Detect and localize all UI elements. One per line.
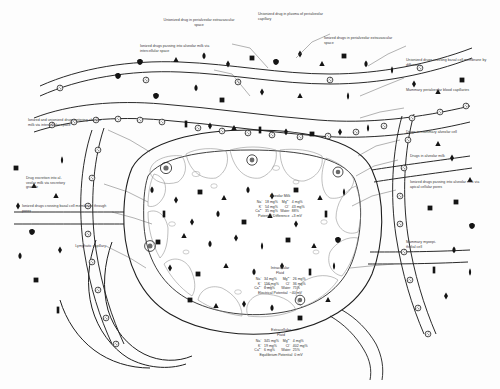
label-mammary-blood-capillaries: Mammary perialveolar blood capillaries xyxy=(406,88,484,93)
alveolar-milk-ion-table: Na+ 18 mg% Mg2+ 4 mg% K+ 54 mg% Cl− 43 m… xyxy=(254,200,306,214)
label-lymphatic-capillary: Lymphatic capillary xyxy=(22,244,106,249)
label-ionized-intercellular: Ionized drugs passing into alveolar milk… xyxy=(140,44,214,53)
extracellular-fluid-title: Extracellular Fluid xyxy=(222,328,340,337)
alveolar-milk-title: Alveolar Milk xyxy=(222,194,338,199)
intracellular-fluid-potential: Electrical Potential −40 mV xyxy=(222,291,338,296)
compartment-intracellular-fluid: Intracellular Fluid Na+ 34 mg% Mg2+ 26 m… xyxy=(222,266,338,296)
label-unionized-plasma-capillary: Unionized drug in plasma of perialveolar… xyxy=(258,12,336,21)
label-mammary-myoepithelial-cell: Mammary myoepi- thelial cell xyxy=(406,240,476,249)
label-ionized-perialveolar-extravascular: Ionized drugs in perialveolar extravascu… xyxy=(324,36,400,45)
label-ionized-basal-pores: Ionized drugs crossing basal cell membra… xyxy=(22,204,108,213)
label-drugs-mammary-alveolar-cell: Drugs in mammary alveolar cell xyxy=(406,130,478,135)
intracellular-fluid-title: Intracellular Fluid xyxy=(222,266,338,275)
label-drugs-alveolar-milk: Drugs in alveolar milk xyxy=(410,154,482,159)
label-unionized-perialveolar-extravascular: Unionized drug in perialveolar extravasc… xyxy=(160,18,238,27)
label-drug-secretion-granule: Drug excretion into al- veolar milk via … xyxy=(26,176,106,190)
intracellular-fluid-ion-table: Na+ 34 mg% Mg2+ 26 mg% K+ 156 mg% Cl− 36… xyxy=(253,277,307,291)
compartment-alveolar-milk: Alveolar Milk Na+ 18 mg% Mg2+ 4 mg% K+ 5… xyxy=(222,194,338,219)
label-ionized-apical-pores: Ionized drugs passing into alveolar milk… xyxy=(410,180,486,189)
alveolar-milk-potential: Potential Difference +3 mV xyxy=(222,214,338,219)
extracellular-fluid-potential: Equilibrium Potential 0 mV xyxy=(222,353,340,358)
label-ionized-unionized-intercellular: Ionized and unionized drugs entering alv… xyxy=(28,118,106,127)
figure-canvas: Unionized drug in perialveolar extravasc… xyxy=(0,0,500,389)
label-unionized-basal-diffusion: Unionized drugs crossing basal cell memb… xyxy=(406,58,488,67)
compartment-extracellular-fluid: Extracellular Fluid Na+ 345 mg% Mg2+ 4 m… xyxy=(222,328,340,358)
extracellular-fluid-ion-table: Na+ 345 mg% Mg2+ 4 mg% K+ 19 mg% Cl− 402… xyxy=(253,339,309,353)
